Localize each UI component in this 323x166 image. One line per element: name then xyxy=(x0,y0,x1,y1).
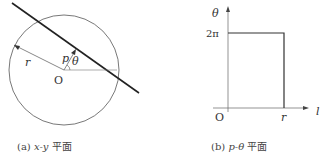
label-origin-a: O xyxy=(54,74,63,87)
radius-line xyxy=(14,45,64,70)
panel-b-figure: θ 2π O r l xyxy=(206,6,320,124)
x-axis-arrowhead xyxy=(303,106,309,110)
caption-b-math: p-θ xyxy=(228,141,244,152)
caption-b: (b) p-θ 平面 xyxy=(211,138,267,153)
y-axis-arrowhead xyxy=(226,6,230,12)
radius-arrowhead xyxy=(14,45,20,50)
label-theta: θ xyxy=(72,55,79,68)
caption-a-prefix: (a) xyxy=(17,141,31,152)
label-r: r xyxy=(25,56,31,69)
caption-b-suffix: 平面 xyxy=(247,141,267,152)
theta-arc xyxy=(67,65,70,70)
panel-a-figure: r p θ O xyxy=(9,3,139,125)
label-origin-b: O xyxy=(215,111,224,124)
x-axis-label: l xyxy=(316,105,320,118)
y-axis-label: θ xyxy=(212,7,219,20)
y-tick-2pi: 2π xyxy=(206,28,219,39)
caption-a: (a) x-y 平面 xyxy=(17,138,72,153)
caption-a-math: x-y xyxy=(34,141,49,152)
x-tick-r: r xyxy=(281,111,287,124)
caption-b-prefix: (b) xyxy=(211,141,225,152)
caption-a-suffix: 平面 xyxy=(52,141,72,152)
domain-rectangle xyxy=(228,33,284,108)
label-p: p xyxy=(62,52,69,65)
